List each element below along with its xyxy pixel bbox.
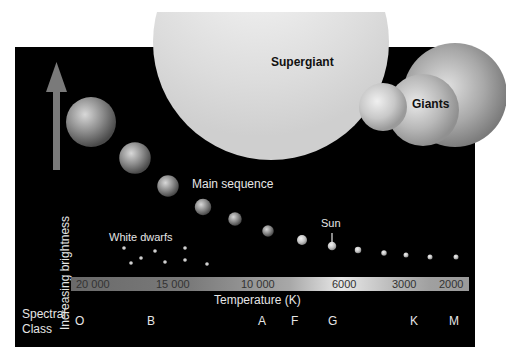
- white-dwarf-star: [205, 262, 209, 266]
- main-sequence-star: [66, 97, 116, 147]
- main-sequence-star: [157, 175, 179, 197]
- supergiant-label: Supergiant: [271, 55, 334, 69]
- temperature-tick: 20 000: [76, 277, 110, 291]
- spectral-class-label: Spectral Class: [22, 307, 66, 337]
- brightness-arrow-shaft: [53, 92, 60, 170]
- white-dwarfs-label: White dwarfs: [109, 231, 173, 243]
- white-dwarf-star: [153, 249, 157, 253]
- main-sequence-star: [195, 199, 212, 216]
- spectral-class-A: A: [258, 314, 266, 328]
- supergiant-star: [153, 0, 389, 160]
- main-sequence-label: Main sequence: [192, 177, 273, 191]
- spectral-class-F: F: [291, 314, 298, 328]
- main-sequence-star: [404, 253, 409, 258]
- white-dwarf-star: [183, 258, 187, 262]
- main-sequence-star: [228, 212, 242, 226]
- spectral-class-label-line2: Class: [22, 322, 66, 337]
- spectral-class-label-line1: Spectral: [22, 307, 66, 322]
- temperature-tick: 10 000: [241, 277, 275, 291]
- main-sequence-star: [119, 142, 151, 174]
- page-top-margin: [0, 0, 506, 12]
- spectral-class-K: K: [410, 314, 418, 328]
- spectral-class-G: G: [328, 314, 337, 328]
- x-axis-label: Temperature (K): [214, 293, 301, 307]
- spectral-class-M: M: [449, 314, 459, 328]
- hr-diagram: Increasing brightness Supergiant Giants …: [0, 0, 506, 362]
- main-sequence-star: [428, 255, 433, 260]
- main-sequence-star: [355, 247, 362, 254]
- white-dwarf-star: [129, 261, 133, 265]
- main-sequence-star: [297, 235, 307, 245]
- sun-label: Sun: [321, 217, 341, 229]
- spectral-class-B: B: [147, 314, 155, 328]
- white-dwarf-star: [122, 246, 126, 250]
- spectral-class-O: O: [75, 314, 84, 328]
- temperature-tick: 6000: [332, 277, 356, 291]
- main-sequence-star: [381, 250, 387, 256]
- giants-label: Giants: [412, 97, 449, 111]
- white-dwarf-stars: [122, 246, 209, 266]
- white-dwarf-star: [163, 260, 167, 264]
- temperature-tick: 15 000: [156, 277, 190, 291]
- temperature-tick: 2000: [439, 277, 463, 291]
- main-sequence-star: [454, 255, 459, 260]
- brightness-arrow-head: [46, 62, 67, 92]
- white-dwarf-star: [139, 256, 143, 260]
- main-sequence-star: [262, 225, 274, 237]
- temperature-tick: 3000: [392, 277, 416, 291]
- giant-star-small: [359, 83, 407, 131]
- white-dwarf-star: [183, 246, 187, 250]
